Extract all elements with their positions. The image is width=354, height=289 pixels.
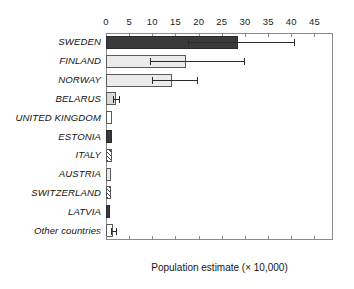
x-tick-mark — [268, 236, 269, 240]
x-tick-mark — [199, 236, 200, 240]
bar — [106, 168, 111, 181]
bar — [106, 205, 110, 218]
error-bar-cap — [294, 39, 295, 46]
x-tick-label: 5 — [126, 16, 131, 27]
x-tick-mark — [106, 236, 107, 240]
x-tick-label: 30 — [239, 16, 250, 27]
category-label: NORWAY — [58, 75, 101, 85]
error-bar-cap — [188, 39, 189, 46]
x-tick-mark — [268, 33, 269, 37]
category-label: ITALY — [75, 150, 101, 160]
bar — [106, 186, 111, 199]
error-bar-cap — [244, 58, 245, 65]
error-bar-line — [188, 42, 294, 43]
x-tick-label: 10 — [147, 16, 158, 27]
error-bar-cap — [152, 77, 153, 84]
x-tick-mark — [245, 236, 246, 240]
category-label: LATVIA — [68, 207, 101, 217]
chart-root: 051015202530354045 SWEDENFINLANDNORWAYBE… — [0, 0, 354, 289]
category-label: Other countries — [34, 226, 101, 236]
bar — [106, 111, 112, 124]
category-label: UNITED KINGDOM — [15, 113, 101, 123]
x-tick-mark — [314, 236, 315, 240]
x-tick-mark — [245, 33, 246, 37]
bar — [106, 149, 112, 162]
error-bar-line — [113, 99, 118, 100]
x-tick-label: 25 — [216, 16, 227, 27]
x-tick-label: 40 — [286, 16, 297, 27]
x-tick-mark — [314, 33, 315, 37]
bottom-axis-tick-labels: 051015202530354045 — [0, 246, 354, 260]
x-tick-mark — [129, 236, 130, 240]
category-label: FINLAND — [59, 56, 101, 66]
category-label: AUSTRIA — [59, 169, 101, 179]
category-label: SWEDEN — [58, 37, 101, 47]
x-tick-mark — [152, 236, 153, 240]
x-tick-mark — [291, 33, 292, 37]
x-tick-mark — [291, 236, 292, 240]
error-bar-cap — [150, 58, 151, 65]
bar — [106, 130, 112, 143]
error-bar-cap — [113, 96, 114, 103]
x-tick-label: 15 — [170, 16, 181, 27]
x-tick-mark — [222, 236, 223, 240]
x-tick-label: 45 — [309, 16, 320, 27]
category-label: ESTONIA — [58, 132, 101, 142]
x-axis-title: Population estimate (× 10,000) — [106, 262, 333, 273]
x-tick-label: 0 — [103, 16, 108, 27]
x-tick-mark — [175, 236, 176, 240]
error-bar-cap — [116, 228, 117, 235]
error-bar-cap — [197, 77, 198, 84]
category-label: SWITZERLAND — [31, 188, 101, 198]
error-bar-cap — [111, 228, 112, 235]
error-bar-cap — [119, 96, 120, 103]
x-tick-label: 35 — [263, 16, 274, 27]
category-label: BELARUS — [56, 94, 102, 104]
error-bar-line — [152, 80, 197, 81]
x-tick-label: 20 — [193, 16, 204, 27]
error-bar-line — [150, 61, 244, 62]
